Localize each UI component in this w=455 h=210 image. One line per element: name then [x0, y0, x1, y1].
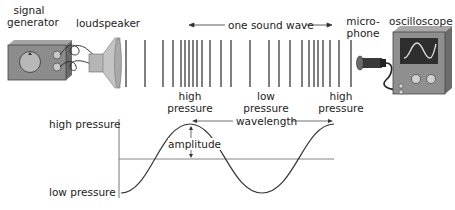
oscilloscope-screen — [400, 38, 438, 64]
loudspeaker-icon — [89, 38, 122, 88]
label-line: low — [236, 90, 296, 102]
oscilloscope-icon — [393, 26, 452, 94]
high-pressure-left-label: high pressure — [160, 90, 220, 114]
wavefront-lines — [126, 40, 351, 87]
label-line: pressure — [311, 102, 371, 114]
amplitude-label: amplitude — [168, 138, 221, 150]
pressure-graph — [119, 119, 334, 198]
label-line: high — [311, 90, 371, 102]
label-line: pressure — [160, 102, 220, 114]
signal-generator-icon — [8, 40, 72, 80]
graph-high-pressure-label: high pressure — [49, 118, 121, 130]
label-line: micro- — [345, 15, 381, 27]
label-line: signal — [7, 4, 51, 16]
one-sound-wave-label: one sound wave — [228, 19, 314, 31]
label-line: phone — [345, 27, 381, 39]
graph-low-pressure-label: low pressure — [49, 186, 116, 198]
signal-generator-label: signal generator — [7, 4, 51, 28]
low-pressure-mid-label: low pressure — [236, 90, 296, 114]
wavelength-label: wavelength — [236, 115, 297, 127]
loudspeaker-label: loudspeaker — [76, 17, 140, 29]
sound-wave-diagram — [0, 0, 455, 210]
pressure-curve — [121, 124, 334, 193]
label-line: pressure — [236, 102, 296, 114]
high-pressure-right-label: high pressure — [311, 90, 371, 114]
microphone-label: micro- phone — [345, 15, 381, 39]
label-line: high — [160, 90, 220, 102]
oscilloscope-label: oscilloscope — [389, 15, 453, 27]
label-line: generator — [7, 16, 51, 28]
